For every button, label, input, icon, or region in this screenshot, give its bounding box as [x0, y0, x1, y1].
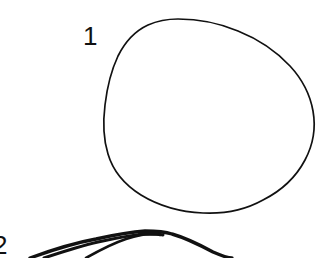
- shape-label-one: 1: [83, 23, 97, 49]
- drawing-layer: [0, 0, 331, 258]
- shape-label-two: 2: [0, 232, 7, 258]
- shape-2-apex-mark: [140, 232, 157, 233]
- figure-canvas: 1 2: [0, 0, 331, 258]
- canvas-background: [0, 0, 331, 258]
